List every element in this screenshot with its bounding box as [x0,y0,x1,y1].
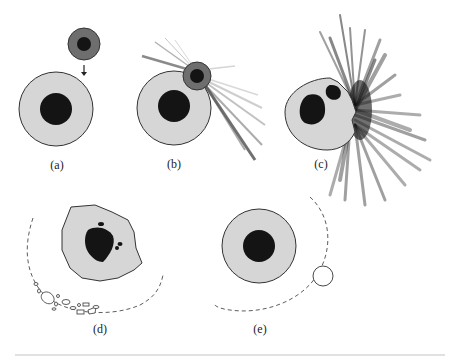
panel-label-e: (e) [253,322,266,336]
target-core-b [158,90,190,122]
panel-c: (c) [285,15,430,205]
cropped-caption [15,354,445,356]
panel-label-b: (b) [167,157,181,171]
panel-d: (d) [27,205,163,336]
debris-fragments [34,283,99,315]
target-core [40,93,72,125]
panel-e: (e) [214,197,333,336]
impactor-core [77,37,91,51]
moonlet [313,266,333,286]
panel-a: (a) [19,28,100,172]
panel-label-d: (d) [93,322,107,336]
panel-label-c: (c) [314,157,327,171]
impactor-core-b [190,69,204,83]
panel-label-a: (a) [50,158,63,172]
figure-canvas: (a) (b) [0,0,455,359]
body-core-e [243,230,275,262]
panel-b: (b) [137,38,265,171]
